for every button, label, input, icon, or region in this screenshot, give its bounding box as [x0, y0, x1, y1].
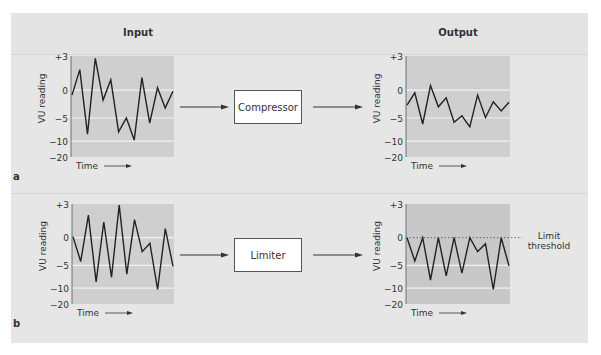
diagram-panel: Input Output a b Compressor Limiter Limi…	[11, 13, 588, 343]
output-b-tick-label: −10	[384, 284, 403, 294]
arrow-right-icon	[355, 105, 363, 110]
input-a-tick-label: −10	[49, 137, 68, 147]
input-a-tick-label: 0	[62, 86, 68, 96]
input-b-x-axis-label: Time	[76, 308, 99, 318]
arrow-right-icon	[221, 105, 229, 110]
input-a-plot-area	[71, 56, 174, 157]
input-a-tick-label: +3	[55, 52, 68, 62]
input-a-x-axis-label: Time	[75, 161, 98, 171]
diagram-graphics: +30−5−10−20VU readingTime+30−5−10−20VU r…	[11, 13, 588, 343]
output-a-x-axis-label: Time	[410, 161, 433, 171]
output-b-tick-label: +3	[390, 200, 403, 210]
output-a-tick-label: −5	[390, 114, 403, 124]
time-arrow-icon	[127, 311, 133, 315]
input-b-tick-label: −20	[50, 300, 69, 310]
output-b-x-axis-label: Time	[410, 308, 433, 318]
output-a-tick-label: 0	[397, 86, 403, 96]
output-b-tick-label: 0	[397, 233, 403, 243]
input-a-tick-label: −5	[55, 114, 68, 124]
time-arrow-icon	[461, 311, 467, 315]
output-b-tick-label: −5	[390, 261, 403, 271]
output-a-y-axis-label: VU reading	[372, 74, 382, 124]
arrow-right-icon	[221, 253, 229, 258]
time-arrow-icon	[126, 164, 132, 168]
input-b-tick-label: 0	[63, 233, 69, 243]
output-b-tick-label: −20	[384, 300, 403, 310]
time-arrow-icon	[461, 164, 467, 168]
arrow-right-icon	[355, 253, 363, 258]
input-b-tick-label: +3	[56, 200, 69, 210]
output-a-tick-label: +3	[390, 52, 403, 62]
output-b-y-axis-label: VU reading	[372, 221, 382, 271]
output-a-tick-label: −10	[384, 137, 403, 147]
input-b-tick-label: −10	[50, 284, 69, 294]
output-a-plot-area	[406, 56, 510, 157]
input-a-tick-label: −20	[49, 153, 68, 163]
input-b-y-axis-label: VU reading	[38, 221, 48, 271]
input-a-y-axis-label: VU reading	[37, 74, 47, 124]
output-a-tick-label: −20	[384, 153, 403, 163]
input-b-tick-label: −5	[56, 261, 69, 271]
